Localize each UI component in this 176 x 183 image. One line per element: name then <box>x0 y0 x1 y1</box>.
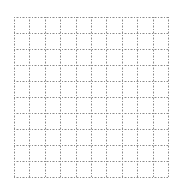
dotted-grid <box>0 0 176 183</box>
grid-diagram <box>0 0 176 183</box>
grid-lines <box>14 17 169 178</box>
